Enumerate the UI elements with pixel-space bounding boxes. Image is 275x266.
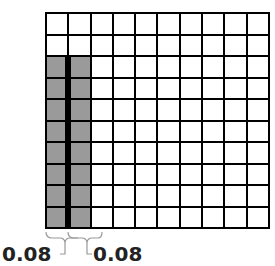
grid-cell <box>203 208 223 228</box>
grid-cell <box>114 36 134 56</box>
grid-cell <box>92 100 112 120</box>
grid-cell <box>158 14 178 34</box>
grid-cell <box>158 100 178 120</box>
grid-cell <box>92 79 112 99</box>
grid-cell <box>114 14 134 34</box>
grid-cell <box>47 36 67 56</box>
grid-cell <box>92 14 112 34</box>
grid-cell <box>114 165 134 185</box>
grid-cell <box>136 79 156 99</box>
grid-cell <box>248 57 268 77</box>
grid-cell <box>248 14 268 34</box>
grid-cell <box>92 122 112 142</box>
grid-cell <box>158 122 178 142</box>
grid-cell <box>114 208 134 228</box>
grid-cell <box>69 208 89 228</box>
label-column-1: 0.08 <box>2 242 51 266</box>
grid-cell <box>47 14 67 34</box>
grid-cell <box>225 165 245 185</box>
grid-cell <box>181 57 201 77</box>
grid-cell <box>203 79 223 99</box>
grid-cell <box>203 122 223 142</box>
grid-cell <box>248 79 268 99</box>
grid-cell <box>114 143 134 163</box>
grid-cell <box>69 165 89 185</box>
grid-cell <box>136 14 156 34</box>
grid-cell <box>69 79 89 99</box>
grid-cell <box>136 100 156 120</box>
grid-cell <box>158 79 178 99</box>
hundred-grid <box>45 12 270 229</box>
grid-cell <box>114 100 134 120</box>
grid-cell <box>181 14 201 34</box>
column-divider <box>65 55 71 229</box>
grid-cell <box>225 57 245 77</box>
grid-cell <box>248 208 268 228</box>
grid-cell <box>69 36 89 56</box>
grid-cell <box>181 208 201 228</box>
grid-cell <box>225 100 245 120</box>
grid-cell <box>181 143 201 163</box>
grid-cell <box>203 143 223 163</box>
grid-cell <box>203 57 223 77</box>
grid-cell <box>136 165 156 185</box>
grid-cell <box>203 100 223 120</box>
grid-cell <box>136 186 156 206</box>
grid-cell <box>203 186 223 206</box>
grid-cell <box>114 57 134 77</box>
grid-cell <box>248 186 268 206</box>
grid-cell <box>158 143 178 163</box>
grid-cell <box>181 186 201 206</box>
grid-cell <box>136 122 156 142</box>
grid-cell <box>225 122 245 142</box>
grid-cell <box>248 165 268 185</box>
grid-cell <box>158 57 178 77</box>
grid-cell <box>181 122 201 142</box>
grid-cell <box>248 36 268 56</box>
grid-cell <box>136 143 156 163</box>
grid-cell <box>248 122 268 142</box>
grid-cell <box>92 208 112 228</box>
grid-cell <box>225 36 245 56</box>
grid-cell <box>92 36 112 56</box>
grid-cell <box>203 36 223 56</box>
grid-cell <box>181 165 201 185</box>
grid-cell <box>69 186 89 206</box>
grid-cell <box>248 100 268 120</box>
grid-cell <box>181 100 201 120</box>
grid-cell <box>158 208 178 228</box>
grid-cell <box>181 36 201 56</box>
grid-cell <box>69 57 89 77</box>
grid-cell <box>225 208 245 228</box>
grid-cell <box>92 186 112 206</box>
grid-cell <box>92 165 112 185</box>
grid-cell <box>203 14 223 34</box>
grid-cell <box>158 36 178 56</box>
grid-cell <box>136 57 156 77</box>
grid-cell <box>92 57 112 77</box>
grid-cell <box>136 208 156 228</box>
grid-cell <box>181 79 201 99</box>
grid-cell <box>69 143 89 163</box>
grid-cell <box>92 143 112 163</box>
grid-cell <box>114 122 134 142</box>
grid-cell <box>114 186 134 206</box>
grid-cell <box>225 79 245 99</box>
grid-cell <box>225 143 245 163</box>
grid-cell <box>158 186 178 206</box>
grid-cell <box>158 165 178 185</box>
grid-cell <box>69 14 89 34</box>
grid-cell <box>114 79 134 99</box>
label-column-2: 0.08 <box>93 242 142 266</box>
grid-cell <box>225 14 245 34</box>
grid-cell <box>248 143 268 163</box>
grid-cell <box>225 186 245 206</box>
grid-cell <box>69 100 89 120</box>
grid-cell <box>203 165 223 185</box>
grid-cell <box>136 36 156 56</box>
grid-cell <box>69 122 89 142</box>
